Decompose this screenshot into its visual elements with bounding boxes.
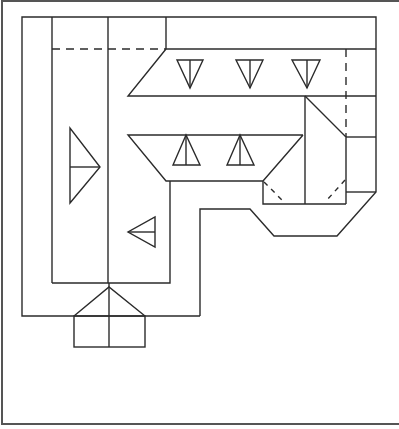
- slope-arrow-left: [128, 217, 155, 247]
- slope-arrow-right: [70, 128, 100, 203]
- roof-plan-diagram: [0, 0, 399, 429]
- slope-arrow-up-1: [173, 135, 200, 165]
- lower-hip-trapezoid: [128, 135, 303, 181]
- dashed-valley-left-box: [264, 182, 282, 200]
- slope-arrow-down-1: [177, 60, 203, 88]
- entrance-porch-gable: [74, 283, 145, 347]
- hip-diagonal: [305, 96, 346, 204]
- slope-arrow-down-3: [292, 60, 320, 88]
- slope-arrow-up-2: [227, 135, 254, 165]
- upper-hip-trapezoid: [128, 49, 376, 96]
- dashed-valley-right-box: [327, 180, 345, 200]
- slope-arrow-down-2: [236, 60, 263, 88]
